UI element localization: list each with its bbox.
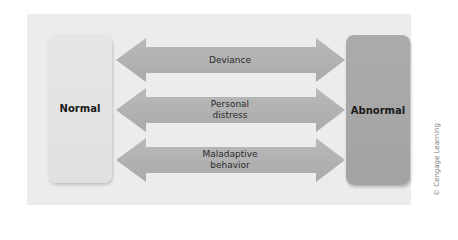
label-line: behavior	[170, 160, 290, 171]
arrow-label-maladaptive-behavior: Maladaptive behavior	[170, 149, 290, 171]
abnormal-label: Abnormal	[351, 105, 405, 116]
label-line: distress	[170, 110, 290, 121]
label-line: Personal	[170, 99, 290, 110]
copyright-credit: © Cengage Learning	[433, 123, 441, 196]
abnormal-box: Abnormal	[346, 35, 410, 185]
arrow-label-deviance: Deviance	[170, 55, 290, 66]
label-line: Maladaptive	[170, 149, 290, 160]
normal-box: Normal	[48, 34, 112, 183]
normal-label: Normal	[60, 103, 101, 114]
label-line: Deviance	[209, 55, 251, 65]
arrow-label-personal-distress: Personal distress	[170, 99, 290, 121]
